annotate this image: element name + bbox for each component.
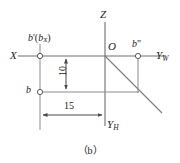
axis-label-z: Z bbox=[100, 9, 106, 20]
point-label-b-front: b'(bX) bbox=[28, 33, 51, 44]
construction-lines-group bbox=[40, 44, 139, 130]
marker-b-side bbox=[135, 53, 140, 58]
figure-caption: （b） bbox=[0, 142, 180, 157]
point-label-b-side: b" bbox=[132, 39, 141, 49]
point-label-b-top: b bbox=[26, 85, 31, 95]
marker-b-top bbox=[37, 89, 42, 94]
dimension-label-horizontal: 15 bbox=[64, 101, 74, 111]
axis-label-x: X bbox=[10, 50, 17, 61]
orthographic-projection-drawing bbox=[0, 0, 180, 163]
figure-container: X Z YW YH O b'(bX) b b" 10 15 （b） bbox=[0, 0, 180, 163]
projection-bisector-group bbox=[105, 56, 162, 113]
point-markers-group bbox=[37, 53, 140, 94]
dimension-label-vertical: 10 bbox=[58, 66, 68, 76]
marker-b-front bbox=[37, 53, 42, 58]
axis-label-yw-subscript: W bbox=[162, 54, 168, 63]
origin-label: O bbox=[108, 41, 116, 52]
point-label-paren-close: ) bbox=[47, 32, 50, 43]
axis-label-yh-subscript: H bbox=[113, 123, 118, 132]
axis-label-yh: YH bbox=[107, 119, 119, 131]
axis-label-yw: YW bbox=[156, 50, 168, 62]
point-label-b-side-doubleprime: " bbox=[137, 38, 141, 49]
bisector-45-line bbox=[105, 56, 162, 113]
